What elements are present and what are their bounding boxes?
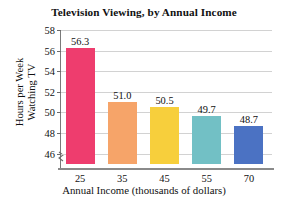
y-tick-label: 56 (45, 45, 55, 56)
y-tick-mark (57, 112, 61, 113)
bar-value-label: 51.0 (113, 90, 131, 101)
y-tick-label: 46 (45, 148, 55, 159)
chart-title: Television Viewing, by Annual Income (0, 6, 288, 18)
x-tick-label: 70 (244, 173, 254, 184)
bar-value-label: 56.3 (71, 36, 89, 47)
y-tick-mark (57, 71, 61, 72)
y-tick-mark (57, 30, 61, 31)
x-tick-label: 45 (159, 173, 169, 184)
y-tick-mark (57, 133, 61, 134)
y-axis-title-line2: Watching TV (26, 58, 38, 126)
bar-column[interactable]: 56.325 (66, 30, 95, 164)
x-axis-line (58, 168, 274, 170)
y-tick-label: 52 (45, 86, 55, 97)
bar[interactable] (108, 102, 137, 164)
bar-column[interactable]: 48.770 (234, 30, 263, 164)
plot-area: 46485052545658 56.32551.03550.54549.7554… (61, 30, 272, 164)
bar-value-label: 48.7 (240, 114, 258, 125)
x-axis-title: Annual Income (thousands of dollars) (0, 184, 288, 196)
y-tick-mark (57, 51, 61, 52)
bar-chart: Television Viewing, by Annual Income Hou… (0, 0, 288, 204)
x-tick-label: 35 (117, 173, 127, 184)
bar[interactable] (234, 126, 263, 164)
bar-column[interactable]: 51.035 (108, 30, 137, 164)
bar[interactable] (150, 107, 179, 164)
x-tick-label: 55 (201, 173, 211, 184)
bar[interactable] (192, 116, 221, 164)
x-tick-label: 25 (75, 173, 85, 184)
y-tick-label: 50 (45, 107, 55, 118)
y-axis-title-line1: Hours per Week (14, 58, 26, 126)
bar[interactable] (66, 48, 95, 164)
y-tick-label: 48 (45, 128, 55, 139)
y-tick-label: 58 (45, 25, 55, 36)
bar-column[interactable]: 50.545 (150, 30, 179, 164)
y-tick-label: 54 (45, 66, 55, 77)
y-tick-mark (57, 92, 61, 93)
bar-value-label: 49.7 (198, 104, 216, 115)
y-tick-mark (57, 154, 61, 155)
bar-column[interactable]: 49.755 (192, 30, 221, 164)
bar-value-label: 50.5 (155, 95, 173, 106)
